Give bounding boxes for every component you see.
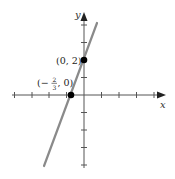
- y-axis-label: y: [74, 9, 81, 20]
- label-x-intercept: (− 2 3 , 0): [37, 76, 73, 91]
- graph: y x (0, 2) (− 2 3 , 0): [0, 0, 175, 179]
- y-axis-arrow-icon: [81, 12, 88, 21]
- label-x-intercept-prefix: (−: [37, 77, 49, 88]
- label-x-intercept-denominator: 3: [53, 84, 57, 91]
- label-y-intercept: (0, 2): [56, 55, 82, 66]
- label-x-intercept-numerator: 2: [53, 76, 57, 83]
- point-x-intercept: [68, 92, 75, 99]
- label-x-intercept-suffix: , 0): [58, 77, 74, 88]
- x-axis-label: x: [160, 99, 166, 110]
- x-axis-arrow-icon: [157, 92, 166, 99]
- point-y-intercept: [81, 57, 88, 64]
